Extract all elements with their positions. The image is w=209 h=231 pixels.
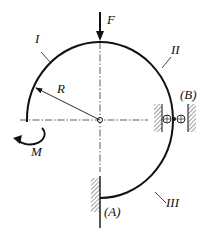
moment-arrow — [18, 128, 45, 144]
fixed-support-a — [91, 176, 100, 228]
segment-label-3: III — [166, 196, 179, 209]
segment-label-1: I — [35, 32, 39, 45]
moment-label: M — [31, 145, 42, 158]
roller-support-b — [154, 104, 196, 132]
radius-arrow — [36, 88, 100, 120]
support-b-label: (B) — [180, 88, 197, 101]
radius-label: R — [57, 82, 65, 95]
support-a-label: (A) — [104, 205, 121, 218]
force-label: F — [107, 13, 115, 26]
segment-label-2: II — [171, 43, 180, 56]
